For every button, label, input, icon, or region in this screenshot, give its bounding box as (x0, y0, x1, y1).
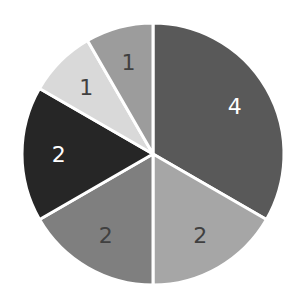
slice-data-label: 2 (99, 223, 113, 248)
slice-data-label: 2 (52, 142, 66, 167)
slice-data-label: 4 (228, 94, 242, 119)
pie-chart: 422211 (0, 0, 300, 302)
slice-data-label: 2 (193, 223, 207, 248)
slice-data-label: 1 (122, 50, 136, 75)
slice-data-label: 1 (79, 75, 93, 100)
